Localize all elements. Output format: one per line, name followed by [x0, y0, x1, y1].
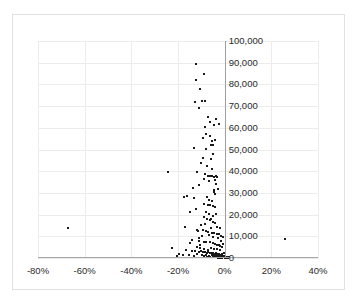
- data-point: [212, 236, 214, 238]
- data-point: [185, 249, 187, 251]
- data-point: [183, 196, 185, 198]
- data-point: [213, 124, 215, 126]
- data-point: [210, 247, 212, 249]
- gridline-vertical: [271, 41, 272, 258]
- data-point: [196, 171, 198, 173]
- data-point: [211, 168, 213, 170]
- data-point: [216, 226, 218, 228]
- data-point: [195, 208, 197, 210]
- data-point: [217, 237, 219, 239]
- data-point: [204, 223, 206, 225]
- data-point: [203, 216, 205, 218]
- data-point: [215, 213, 217, 215]
- data-point: [202, 137, 204, 139]
- data-point: [203, 241, 205, 243]
- data-point: [219, 249, 221, 251]
- data-point: [203, 203, 205, 205]
- data-point: [171, 247, 173, 249]
- data-point: [207, 231, 209, 233]
- data-point: [200, 162, 202, 164]
- data-point: [198, 237, 200, 239]
- data-point: [214, 206, 216, 208]
- data-point: [195, 79, 197, 81]
- data-point: [199, 244, 201, 246]
- data-point: [203, 248, 205, 250]
- data-point: [216, 176, 218, 178]
- data-point: [202, 157, 204, 159]
- data-point: [178, 253, 180, 255]
- data-point: [222, 236, 224, 238]
- data-point: [211, 200, 213, 202]
- data-point: [216, 248, 218, 250]
- data-point: [205, 211, 207, 213]
- data-point: [196, 246, 198, 248]
- data-point: [214, 222, 216, 224]
- data-point: [208, 234, 210, 236]
- data-point: [217, 188, 219, 190]
- data-point: [212, 144, 214, 146]
- data-point: [210, 218, 212, 220]
- scatter-plot-area: [38, 41, 318, 258]
- data-point: [196, 253, 198, 255]
- data-point: [195, 63, 197, 65]
- y-axis-line: [225, 41, 226, 258]
- data-point: [207, 116, 209, 118]
- data-point: [215, 118, 217, 120]
- data-point: [207, 249, 209, 251]
- data-point: [204, 100, 206, 102]
- data-point: [205, 241, 207, 243]
- gridline-vertical: [178, 41, 179, 258]
- data-point: [205, 133, 207, 135]
- data-point: [209, 135, 211, 137]
- data-point: [186, 195, 188, 197]
- data-point: [208, 180, 210, 182]
- data-point: [220, 240, 222, 242]
- gridline-vertical: [38, 41, 39, 258]
- data-point: [192, 187, 194, 189]
- gridline-vertical: [318, 41, 319, 258]
- data-point: [189, 211, 191, 213]
- data-point: [191, 250, 193, 252]
- data-point: [202, 229, 204, 231]
- gridline-vertical: [85, 41, 86, 258]
- data-point: [208, 213, 210, 215]
- data-point: [206, 196, 208, 198]
- data-point: [206, 218, 208, 220]
- data-point: [212, 153, 214, 155]
- data-point: [188, 254, 190, 256]
- data-point: [205, 230, 207, 232]
- data-point: [214, 193, 216, 195]
- data-point: [209, 241, 211, 243]
- data-point: [221, 246, 223, 248]
- data-point: [204, 126, 206, 128]
- data-point: [193, 197, 195, 199]
- data-point: [218, 123, 220, 125]
- data-point: [198, 184, 200, 186]
- data-point: [213, 248, 215, 250]
- data-point: [211, 140, 213, 142]
- data-point: [67, 227, 69, 229]
- data-point: [210, 227, 212, 229]
- data-point: [221, 253, 223, 255]
- data-point: [204, 173, 206, 175]
- data-point: [199, 247, 201, 249]
- data-point: [193, 147, 195, 149]
- data-point: [184, 226, 186, 228]
- data-point: [213, 232, 215, 234]
- data-point: [189, 242, 191, 244]
- data-point: [219, 227, 221, 229]
- data-point: [198, 240, 200, 242]
- x-axis-line: [38, 257, 318, 258]
- data-point: [191, 239, 193, 241]
- data-point: [199, 88, 201, 90]
- data-point: [209, 121, 211, 123]
- data-point: [194, 101, 196, 103]
- gridline-vertical: [131, 41, 132, 258]
- data-point: [212, 215, 214, 217]
- data-point: [214, 179, 216, 181]
- data-point: [200, 224, 202, 226]
- data-point: [284, 238, 286, 240]
- data-point: [197, 230, 199, 232]
- data-point: [201, 235, 203, 237]
- data-point: [203, 73, 205, 75]
